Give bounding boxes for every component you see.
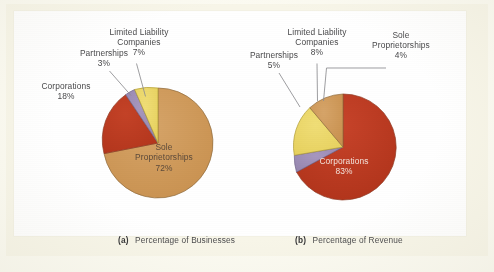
label-a-sole-line2: Proprietorships	[118, 152, 210, 162]
label-a-partnerships-name: Partnerships	[68, 48, 140, 58]
figure-container: Limited Liability Companies 7% Partnersh…	[0, 0, 494, 272]
leader-b-llc	[317, 64, 318, 102]
label-a-corporations-pct: 18%	[30, 91, 102, 101]
caption-a-letter: (a)	[118, 235, 129, 245]
caption-a-title: Percentage of Businesses	[135, 235, 235, 245]
label-a-corporations: Corporations 18%	[30, 81, 102, 101]
label-a-sole-pct: 72%	[118, 163, 210, 173]
label-b-corporations: Corporations 83%	[302, 156, 386, 177]
label-a-llc-line1: Limited Liability	[102, 27, 176, 37]
caption-b-title: Percentage of Revenue	[313, 235, 403, 245]
label-b-llc-line2: Companies	[280, 37, 354, 47]
figure-panel: Limited Liability Companies 7% Partnersh…	[14, 11, 466, 236]
label-b-partnerships: Partnerships 5%	[238, 50, 310, 70]
leader-a-partnerships	[110, 71, 132, 96]
pie-b-slices	[293, 94, 396, 200]
leader-b-partnerships	[279, 73, 300, 107]
label-b-sole-pct: 4%	[358, 50, 444, 60]
label-a-llc-line2: Companies	[102, 37, 176, 47]
label-b-partnerships-name: Partnerships	[238, 50, 310, 60]
label-a-sole-proprietorships: Sole Proprietorships 72%	[118, 142, 210, 173]
label-a-corporations-name: Corporations	[30, 81, 102, 91]
label-b-corporations-pct: 83%	[302, 166, 386, 176]
label-b-corporations-name: Corporations	[302, 156, 386, 166]
label-b-sole-proprietorships: Sole Proprietorships 4%	[358, 30, 444, 61]
label-b-sole-line2: Proprietorships	[358, 40, 444, 50]
caption-b-letter: (b)	[295, 235, 306, 245]
caption-b: (b) Percentage of Revenue	[295, 235, 403, 245]
label-b-partnerships-pct: 5%	[238, 60, 310, 70]
label-b-llc-line1: Limited Liability	[280, 27, 354, 37]
label-a-partnerships-pct: 3%	[68, 58, 140, 68]
label-a-partnerships: Partnerships 3%	[68, 48, 140, 68]
caption-a: (a) Percentage of Businesses	[118, 235, 235, 245]
label-a-sole-line1: Sole	[118, 142, 210, 152]
label-b-sole-line1: Sole	[358, 30, 444, 40]
